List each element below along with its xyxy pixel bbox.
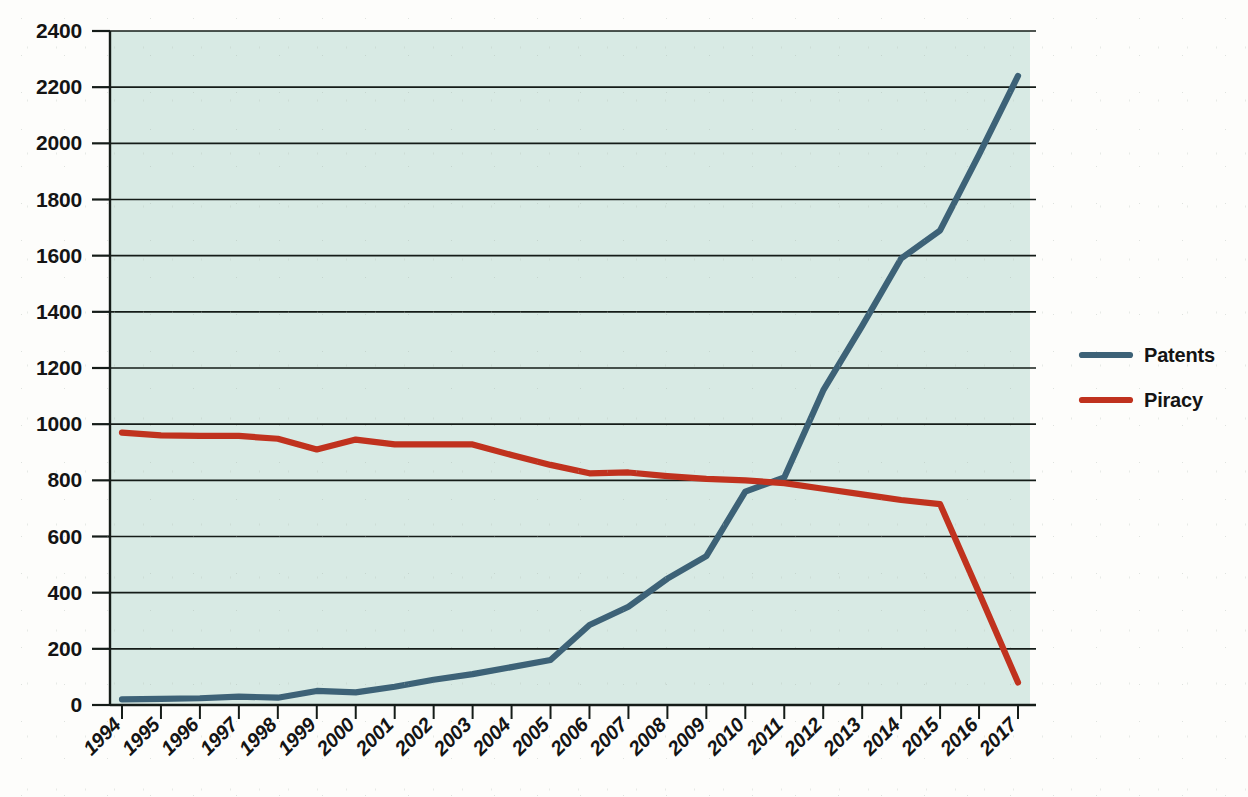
- x-axis-tick-label: 2011: [741, 713, 787, 759]
- x-axis-tick-label: 2005: [506, 712, 554, 760]
- x-axis-tick-label: 2012: [779, 713, 826, 760]
- legend-label-piracy[interactable]: Piracy: [1144, 389, 1204, 411]
- x-axis-tick-label: 2014: [857, 713, 904, 760]
- x-axis-tick-label: 1995: [118, 712, 165, 759]
- y-axis-tick-label: 2000: [36, 131, 82, 154]
- y-axis-tick-label: 1200: [36, 356, 82, 379]
- y-axis-tick-label: 1600: [36, 244, 82, 267]
- x-axis-tick-label: 2002: [390, 713, 437, 760]
- x-axis-tick-label: 2016: [935, 712, 983, 760]
- x-axis-tick-label: 2009: [662, 712, 710, 760]
- line-chart: 0200400600800100012001400160018002000220…: [0, 0, 1248, 797]
- x-axis-tick-label: 2015: [896, 712, 944, 760]
- x-axis-tick-label: 2010: [701, 713, 748, 760]
- y-axis-tick-label: 1400: [36, 300, 82, 323]
- x-axis-tick-label: 2000: [312, 713, 359, 760]
- x-axis-tick-label: 2008: [623, 712, 671, 760]
- x-axis-tick-label: 1997: [196, 712, 243, 759]
- chart-container: 0200400600800100012001400160018002000220…: [0, 0, 1248, 797]
- y-axis-tick-label: 2400: [36, 19, 82, 42]
- chart-legend: PatentsPiracy: [1082, 344, 1215, 411]
- x-axis-tick-label: 2013: [818, 713, 865, 760]
- x-axis-tick-label: 2017: [974, 712, 1022, 760]
- x-axis-tick-label: 2006: [545, 712, 593, 760]
- x-axis-tick-label: 2004: [468, 713, 515, 760]
- y-axis-tick-label: 800: [48, 468, 82, 491]
- y-axis-tick-label: 400: [48, 581, 82, 604]
- y-axis-tick-label: 2200: [36, 75, 82, 98]
- y-axis-tick-label: 0: [71, 693, 82, 716]
- x-axis-tick-label: 1994: [79, 713, 125, 759]
- x-axis-tick-label: 1999: [273, 712, 320, 759]
- legend-label-patents[interactable]: Patents: [1144, 344, 1215, 366]
- y-axis-tick-label: 1000: [36, 412, 82, 435]
- y-axis-tick-label: 200: [48, 637, 82, 660]
- y-axis-tick-label: 1800: [36, 188, 82, 211]
- y-axis-tick-label: 600: [48, 525, 82, 548]
- x-axis-tick-label: 2007: [584, 712, 632, 760]
- x-axis-tick-label: 2001: [351, 713, 398, 760]
- x-axis-tick-label: 1998: [234, 712, 281, 759]
- x-axis-tick-label: 1996: [157, 712, 204, 759]
- x-axis-tick-label: 2003: [429, 713, 476, 760]
- y-axis-labels: 0200400600800100012001400160018002000220…: [36, 19, 82, 716]
- y-axis-ticks: [92, 31, 110, 705]
- x-axis-labels: 1994199519961997199819992000200120022003…: [79, 712, 1022, 760]
